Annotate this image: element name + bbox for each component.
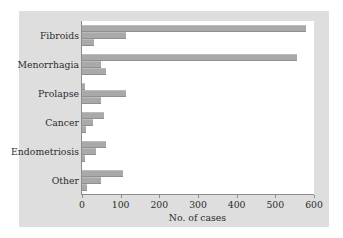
bar xyxy=(82,141,106,148)
x-tick-label: 0 xyxy=(62,199,102,210)
category-label: Other xyxy=(52,176,79,186)
bar xyxy=(82,54,297,61)
chart-figure: FibroidsMenorrhagiaProlapseCancerEndomet… xyxy=(0,0,343,238)
category-label: Endometriosis xyxy=(11,147,79,157)
y-axis-line xyxy=(81,21,82,195)
bar xyxy=(82,39,94,46)
x-tick-label: 200 xyxy=(139,199,179,210)
x-tick-mark xyxy=(314,195,315,198)
bar xyxy=(82,126,86,133)
x-axis-title: No. of cases xyxy=(81,212,314,223)
bar xyxy=(82,148,96,155)
category-label: Fibroids xyxy=(40,31,79,41)
x-tick-mark xyxy=(237,195,238,198)
x-tick-label: 100 xyxy=(101,199,141,210)
bar xyxy=(82,25,306,32)
bar xyxy=(82,119,93,126)
x-tick-mark xyxy=(121,195,122,198)
x-tick-label: 500 xyxy=(255,199,295,210)
bar xyxy=(82,97,101,104)
x-tick-mark xyxy=(82,195,83,198)
category-label: Cancer xyxy=(45,118,79,128)
category-label: Prolapse xyxy=(38,89,79,99)
x-tick-label: 600 xyxy=(294,199,334,210)
bar xyxy=(82,68,106,75)
bar xyxy=(82,184,87,191)
bar xyxy=(82,155,85,162)
bar xyxy=(82,90,126,97)
x-tick-mark xyxy=(198,195,199,198)
category-label: Menorrhagia xyxy=(18,60,80,70)
x-tick-mark xyxy=(275,195,276,198)
bar xyxy=(82,177,101,184)
x-tick-label: 400 xyxy=(217,199,257,210)
bar xyxy=(82,170,123,177)
bar xyxy=(82,32,126,39)
plot-area xyxy=(82,21,314,195)
bar xyxy=(82,83,85,90)
x-tick-mark xyxy=(159,195,160,198)
bar xyxy=(82,61,101,68)
x-tick-label: 300 xyxy=(178,199,218,210)
bar xyxy=(82,112,104,119)
